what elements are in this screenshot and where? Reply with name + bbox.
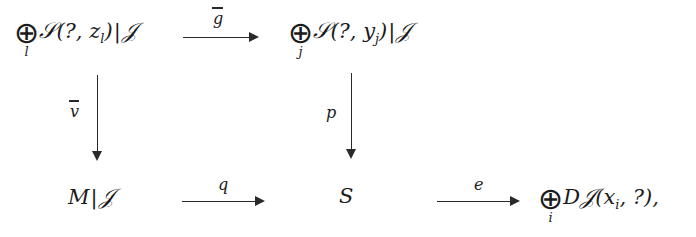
node-top-left-args: (?, z: [56, 19, 100, 43]
direct-sum-icon: ⊕ j: [288, 20, 313, 46]
direct-sum-index: i: [548, 211, 552, 224]
arrow-right-p: [346, 73, 358, 159]
arrow-head: [510, 196, 520, 206]
node-bottom-right-prefix: D: [563, 185, 580, 209]
script-j-symbol: 𝒥: [99, 184, 114, 209]
node-bottom-right-args-close: , ?),: [619, 185, 658, 209]
node-top-right-args: (?, y: [330, 19, 375, 43]
script-s-symbol: 𝒮: [39, 18, 56, 43]
direct-sum-icon: ⊕ l: [14, 20, 39, 46]
arrow-head: [249, 32, 259, 42]
node-top-left-args-close: ): [104, 19, 112, 43]
overbar-wrapper: v: [70, 104, 79, 120]
direct-sum-glyph: ⊕: [288, 20, 313, 46]
script-j-symbol: 𝒥: [396, 18, 411, 43]
node-bottom-right: ⊕ i D𝒥(xi, ?),: [538, 186, 659, 212]
arrow-shaft: [437, 201, 511, 202]
arrow-head: [255, 196, 265, 206]
overbar-wrapper: g: [213, 11, 223, 27]
arrow-label-bottom-left-text: q: [218, 175, 228, 194]
node-bottom-right-args: (x: [595, 185, 615, 209]
arrow-label-right: p: [326, 105, 336, 121]
arrow-shaft: [183, 37, 250, 38]
arrow-label-right-text: p: [326, 103, 336, 122]
arrow-label-bottom-right: e: [474, 177, 483, 193]
direct-sum-icon: ⊕ i: [538, 186, 563, 212]
restriction-bar: |: [113, 19, 122, 43]
arrow-left-vbar: [92, 75, 104, 161]
arrow-label-left-text: v: [70, 102, 79, 121]
arrow-head: [346, 149, 356, 159]
arrow-head: [92, 151, 102, 161]
restriction-bar: |: [90, 185, 99, 209]
arrow-label-left: v: [70, 104, 79, 120]
arrow-shaft: [97, 75, 98, 152]
script-s-symbol: 𝒮: [313, 18, 330, 43]
arrow-label-bottom-left: q: [218, 177, 228, 193]
arrow-label-top: g: [213, 11, 223, 27]
script-j-symbol: 𝒥: [122, 18, 137, 43]
direct-sum-index: j: [299, 45, 303, 58]
node-bottom-mid-main: S: [339, 184, 353, 208]
direct-sum-index: l: [24, 45, 28, 58]
node-top-left: ⊕ l 𝒮(?, zl)|𝒥: [14, 20, 137, 46]
arrow-shaft: [351, 73, 352, 150]
direct-sum-glyph: ⊕: [14, 20, 39, 46]
script-j-symbol: 𝒥: [580, 184, 595, 209]
node-bottom-left: M|𝒥: [68, 186, 114, 208]
arrow-bottom-e: [437, 196, 521, 208]
node-bottom-mid: S: [339, 186, 353, 207]
arrow-shaft: [182, 201, 256, 202]
arrow-bottom-q: [182, 196, 266, 208]
arrow-top-gbar: [183, 32, 259, 44]
arrow-label-top-text: g: [213, 9, 223, 28]
restriction-bar: |: [387, 19, 396, 43]
node-bottom-left-main: M: [68, 185, 90, 209]
arrow-label-bottom-right-text: e: [474, 175, 483, 194]
commutative-diagram: ⊕ l 𝒮(?, zl)|𝒥 g ⊕ j 𝒮(?, yj)|𝒥 v p M|𝒥: [0, 0, 696, 237]
direct-sum-glyph: ⊕: [538, 186, 563, 212]
node-top-right: ⊕ j 𝒮(?, yj)|𝒥: [288, 20, 412, 46]
